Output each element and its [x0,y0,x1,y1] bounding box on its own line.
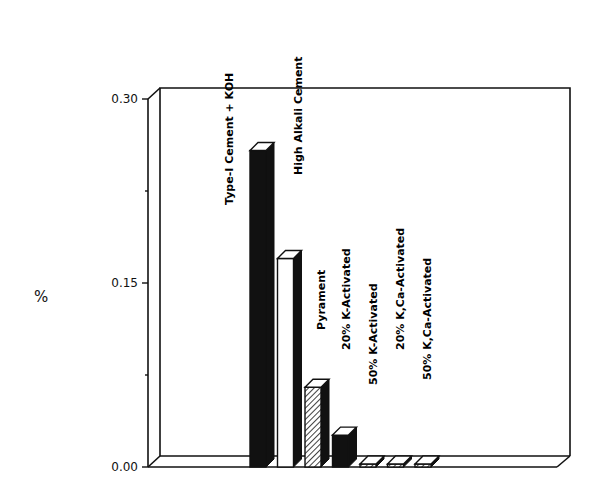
bar [250,143,274,467]
category-label: High Alkali Cement [292,57,305,175]
category-label: 20% K-Activated [340,248,353,350]
y-tick-label: 0.15 [111,276,138,290]
category-label: 20% K,Ca-Activated [394,228,407,350]
category-label: 50% K,Ca-Activated [421,258,434,380]
y-axis: 0.000.150.30 [111,92,148,474]
bar-chart: 0.000.150.30 % Type-I Cement + KOHHigh A… [0,0,602,497]
category-label: 50% K-Activated [367,283,380,385]
bar [360,456,384,467]
y-tick-label: 0.00 [111,460,138,474]
category-label: Pyrament [315,270,328,330]
bar [278,250,302,467]
bar [415,456,439,467]
chart-frame [148,88,570,467]
bar [388,456,412,467]
y-tick-label: 0.30 [111,92,138,106]
bar [305,379,329,467]
bar [333,427,357,467]
category-label: Type-I Cement + KOH [223,73,236,205]
y-axis-label: % [34,288,48,306]
